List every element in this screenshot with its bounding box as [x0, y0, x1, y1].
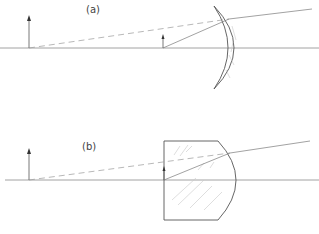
- panel-a-label: (a): [86, 4, 100, 15]
- optics-diagram: (a) (b): [0, 0, 319, 234]
- incident-ray-a: [163, 19, 229, 48]
- refracted-ray-a: [229, 9, 312, 19]
- image-arrow-b: [163, 166, 166, 180]
- virtual-ray-extension-b: [29, 153, 230, 180]
- refracted-ray-b: [230, 141, 310, 153]
- incident-ray-b: [164, 153, 230, 180]
- object-arrow-b: [27, 148, 31, 180]
- panel-b-label: (b): [82, 141, 96, 152]
- virtual-ray-extension-a: [29, 19, 229, 48]
- object-arrow-a: [27, 15, 31, 48]
- panel-b: (b): [5, 141, 319, 220]
- image-arrow-a: [162, 34, 165, 48]
- panel-a: (a): [0, 4, 319, 89]
- plano-convex-lens: [164, 141, 236, 220]
